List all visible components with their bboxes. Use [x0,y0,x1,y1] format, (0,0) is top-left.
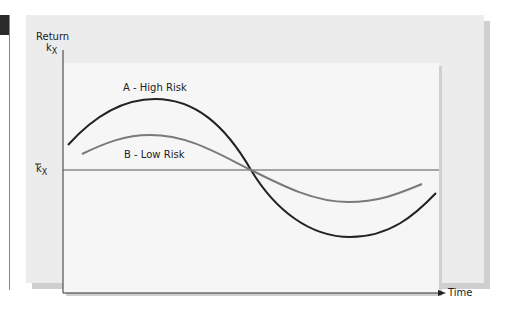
series-b-low-risk-line [82,135,422,202]
series-a-high-risk-line [68,99,436,237]
mean-subscript: X [42,168,47,177]
series-a-label: A - High Risk [123,82,187,93]
y-axis-subscript: X [52,47,57,56]
chart-svg [0,0,509,334]
x-axis-arrow-icon [438,290,446,296]
mean-return-label: kX [36,163,47,174]
y-axis-symbol: kX [46,42,57,53]
series-b-label: B - Low Risk [124,149,184,160]
y-axis-k: k [46,42,52,53]
mean-k: k [36,163,42,174]
y-axis-label: Return [36,31,69,42]
x-axis-label: Time [448,287,472,298]
